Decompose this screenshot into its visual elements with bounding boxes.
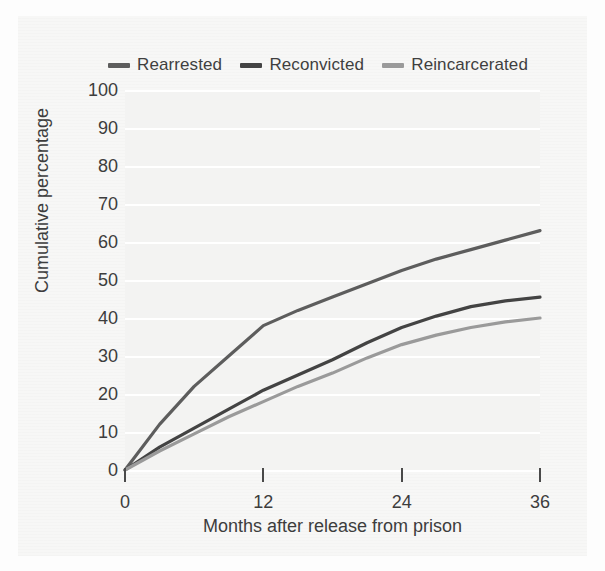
y-tick-label-40: 40 [74, 308, 118, 329]
legend-label-reconvicted: Reconvicted [269, 55, 364, 75]
x-tick-label-12: 12 [233, 492, 293, 513]
series-line-reconvicted [125, 297, 540, 470]
y-axis-title: Cumulative percentage [32, 51, 53, 351]
legend-item-reincarcerated[interactable]: Reincarcerated [382, 55, 528, 75]
legend-label-rearrested: Rearrested [137, 55, 222, 75]
y-axis-ticks: 0102030405060708090100 [66, 90, 118, 470]
series-layer [125, 90, 540, 470]
chart-figure: Rearrested Reconvicted Reincarcerated 01… [0, 0, 605, 571]
legend-swatch-rearrested [108, 63, 130, 68]
x-tick-label-0: 0 [95, 492, 155, 513]
series-line-rearrested [125, 231, 540, 470]
y-tick-label-100: 100 [74, 80, 118, 101]
y-tick-label-60: 60 [74, 232, 118, 253]
y-tick-label-30: 30 [74, 346, 118, 367]
plot-area [125, 90, 540, 470]
x-tick-mark-36 [539, 468, 541, 482]
y-tick-label-0: 0 [74, 460, 118, 481]
y-tick-label-10: 10 [74, 422, 118, 443]
y-tick-label-90: 90 [74, 118, 118, 139]
legend-label-reincarcerated: Reincarcerated [411, 55, 528, 75]
y-tick-label-80: 80 [74, 156, 118, 177]
x-tick-mark-12 [262, 468, 264, 482]
y-tick-label-50: 50 [74, 270, 118, 291]
x-tick-mark-0 [124, 468, 126, 482]
chart-legend: Rearrested Reconvicted Reincarcerated [108, 52, 528, 78]
legend-swatch-reconvicted [240, 63, 262, 68]
legend-item-rearrested[interactable]: Rearrested [108, 55, 222, 75]
legend-item-reconvicted[interactable]: Reconvicted [240, 55, 364, 75]
y-tick-label-70: 70 [74, 194, 118, 215]
x-axis-title: Months after release from prison [125, 516, 540, 537]
x-tick-mark-24 [401, 468, 403, 482]
x-axis-ticks: 0122436 [125, 470, 540, 514]
legend-swatch-reincarcerated [382, 63, 404, 68]
x-tick-label-24: 24 [372, 492, 432, 513]
y-tick-label-20: 20 [74, 384, 118, 405]
x-tick-label-36: 36 [510, 492, 570, 513]
